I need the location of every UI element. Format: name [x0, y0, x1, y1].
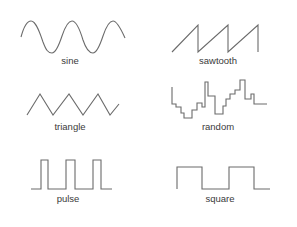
square-wave-icon	[177, 167, 270, 189]
pulse-label: pulse	[57, 193, 80, 204]
sine-label: sine	[61, 55, 78, 66]
random-wave-icon	[172, 80, 267, 118]
sawtooth-wave-icon	[172, 25, 258, 52]
triangle-wave-icon	[27, 94, 119, 115]
sawtooth-label: sawtooth	[199, 55, 237, 66]
pulse-wave-icon	[31, 160, 112, 189]
waveform-diagram: sine sawtooth triangle random pulse squa…	[0, 0, 297, 227]
sine-wave-icon	[21, 21, 125, 53]
waveform-random: random	[172, 80, 267, 132]
triangle-label: triangle	[54, 121, 85, 132]
waveform-pulse: pulse	[31, 160, 112, 204]
waveform-sine: sine	[21, 21, 125, 66]
random-label: random	[202, 121, 234, 132]
square-label: square	[205, 193, 234, 204]
waveform-square: square	[177, 167, 270, 204]
waveform-sawtooth: sawtooth	[172, 25, 258, 66]
waveform-triangle: triangle	[27, 94, 119, 132]
